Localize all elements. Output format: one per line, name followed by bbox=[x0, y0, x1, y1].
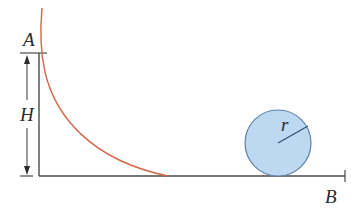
physics-diagram: A H r B bbox=[0, 0, 351, 222]
arrow-down-icon bbox=[24, 166, 30, 175]
arrow-up-icon bbox=[24, 55, 30, 64]
radius-label: r bbox=[281, 114, 289, 135]
height-label: H bbox=[19, 104, 35, 125]
point-b-label: B bbox=[325, 186, 337, 207]
point-a-label: A bbox=[21, 29, 35, 50]
curved-track bbox=[41, 8, 168, 176]
